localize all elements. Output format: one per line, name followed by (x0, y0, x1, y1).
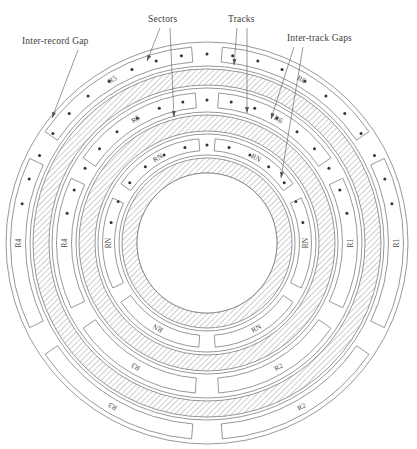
track-dot (68, 112, 71, 115)
track-dot (281, 68, 284, 71)
callout-label: Tracks (228, 14, 255, 24)
track-dot (327, 167, 330, 170)
track-dot (158, 107, 161, 110)
callout-arrowhead-icon (147, 55, 151, 61)
sector-label: R4 (60, 238, 69, 247)
track-dot (206, 99, 209, 102)
sector-label: R3 (129, 361, 141, 373)
callout-arrowhead-icon (280, 172, 284, 178)
track-dot (163, 153, 166, 156)
sector-label: R3 (106, 400, 118, 412)
sector-label: RN (150, 322, 164, 335)
track-dot (343, 112, 346, 115)
sector-label: R6 (272, 113, 284, 125)
track-dot (21, 202, 24, 205)
track-dot (84, 167, 87, 170)
track-dot (38, 154, 41, 157)
sector-label: RN (249, 322, 263, 335)
track-dot (301, 221, 304, 224)
sector-label: RN (249, 151, 263, 164)
track-dot (228, 146, 231, 149)
sector-label: R2 (272, 361, 284, 373)
track-dot (390, 202, 393, 205)
track-dot (206, 144, 209, 147)
track-dot (155, 59, 158, 62)
track-dot (87, 95, 90, 98)
callout-inter-record-gap: Inter-record Gap (22, 36, 89, 118)
track-dot (230, 101, 233, 104)
sector-label: R5 (129, 113, 141, 125)
track-dot (180, 54, 183, 57)
disk-platter-diagram: R1R2R3R4R5R6R1R2R3R4R5R6RNRNRNRNRNRN Int… (0, 0, 417, 449)
track-dot (383, 177, 386, 180)
callout-label: Sectors (148, 14, 177, 24)
track-dot (313, 147, 316, 150)
track-dot (98, 147, 101, 150)
diagram-canvas: R1R2R3R4R5R6R1R2R3R4R5R6RNRNRNRNRNRN Int… (0, 0, 417, 449)
callout-arrowhead-icon (52, 112, 56, 118)
sector-label: R1 (392, 238, 401, 247)
track-dot (28, 177, 31, 180)
track-dot (73, 189, 76, 192)
track-dot (231, 54, 234, 57)
track-dot (253, 107, 256, 110)
sector-label: RN (151, 151, 165, 164)
track-dot (206, 53, 209, 56)
callout-leader-line (52, 50, 78, 118)
track-dot (128, 181, 131, 184)
sector-label: R5 (106, 73, 118, 85)
track-dot (130, 68, 133, 71)
track-dot (360, 132, 363, 135)
track-dot (144, 165, 147, 168)
callout-label: Inter-track Gaps (287, 33, 352, 43)
track-dot (267, 165, 270, 168)
callout-label: Inter-record Gap (22, 36, 89, 46)
sector-label: RN (104, 237, 113, 248)
track-dot (373, 154, 376, 157)
callout-arrowhead-icon (245, 107, 249, 113)
disk-hub (137, 173, 277, 313)
track-dot (66, 212, 69, 215)
track-dot (338, 189, 341, 192)
track-dot (181, 101, 184, 104)
track-dot (295, 130, 298, 133)
track-dot (324, 95, 327, 98)
sector-label: R1 (346, 238, 355, 247)
track-dot (110, 221, 113, 224)
track-dot (51, 132, 54, 135)
track-dot (283, 181, 286, 184)
sector-label: RN (301, 237, 310, 248)
track-dot (116, 130, 119, 133)
track-dot (183, 146, 186, 149)
callout-sectors: Sectors (147, 14, 177, 117)
sector-label: R4 (14, 238, 23, 247)
track-dot (345, 212, 348, 215)
sector-label: R2 (295, 400, 307, 412)
track-dot (256, 59, 259, 62)
